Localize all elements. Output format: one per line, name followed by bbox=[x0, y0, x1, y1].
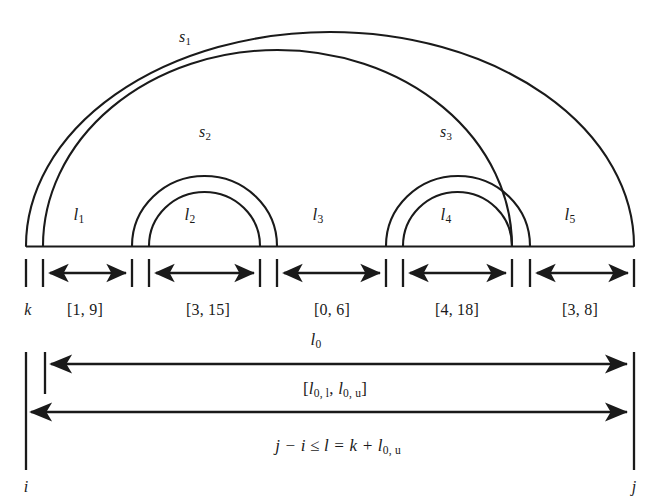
arc-label-s2-subscript: 2 bbox=[205, 130, 211, 142]
loop-label-l2-subscript: 2 bbox=[189, 213, 195, 226]
arc-label-s3: s3 bbox=[440, 124, 452, 142]
arc-s1-outer bbox=[26, 32, 634, 246]
loop-label-l2: l2 bbox=[185, 206, 196, 226]
range-separator: , bbox=[329, 379, 338, 398]
interval-label-2: [3, 15] bbox=[186, 302, 230, 318]
loop-label-l1-subscript: 1 bbox=[78, 213, 84, 226]
arc-s2-outer bbox=[132, 176, 277, 246]
arc-label-s1-subscript: 1 bbox=[185, 35, 191, 47]
formula-l0u-subscript: 0, u bbox=[383, 444, 401, 457]
loop-label-l5: l5 bbox=[565, 206, 576, 226]
arc-s3-inner bbox=[403, 192, 512, 246]
arc-label-s2: s2 bbox=[199, 124, 211, 142]
node-label-j: j bbox=[632, 479, 637, 495]
range-upper-subscript: 0, u bbox=[343, 387, 361, 400]
range-close-bracket: ] bbox=[361, 379, 367, 398]
loop-label-l3: l3 bbox=[313, 206, 324, 226]
arc-diagram-svg bbox=[0, 0, 672, 503]
loop-label-l3-subscript: 3 bbox=[317, 213, 323, 226]
formula-expression: j − i ≤ l = k + bbox=[275, 436, 378, 455]
loop-label-l1: l1 bbox=[74, 206, 85, 226]
arc-label-s1: s1 bbox=[179, 29, 191, 47]
arc-label-s3-subscript: 3 bbox=[446, 130, 452, 142]
l0-label-subscript: 0 bbox=[315, 338, 321, 351]
loop-label-l5-subscript: 5 bbox=[569, 213, 575, 226]
node-label-i: i bbox=[24, 479, 29, 495]
figure-canvas: s1 s2 s3 l1 l2 l3 l4 l5 k [1, 9] [3, 15]… bbox=[0, 0, 672, 503]
length-constraint-formula: j − i ≤ l = k + l0, u bbox=[275, 437, 401, 457]
loop-label-l4: l4 bbox=[441, 206, 452, 226]
l0-label: l0 bbox=[311, 331, 322, 351]
range-lower-subscript: 0, l bbox=[314, 387, 330, 400]
interval-label-3: [0, 6] bbox=[314, 302, 350, 318]
arc-group bbox=[26, 32, 634, 246]
interval-label-5: [3, 8] bbox=[562, 302, 598, 318]
node-label-k: k bbox=[24, 302, 31, 318]
loop-label-l4-subscript: 4 bbox=[445, 213, 451, 226]
interval-label-4: [4, 18] bbox=[435, 302, 479, 318]
arc-s2-inner bbox=[149, 192, 260, 246]
range-label: [l0, l, l0, u] bbox=[303, 380, 367, 400]
interval-label-1: [1, 9] bbox=[67, 302, 103, 318]
